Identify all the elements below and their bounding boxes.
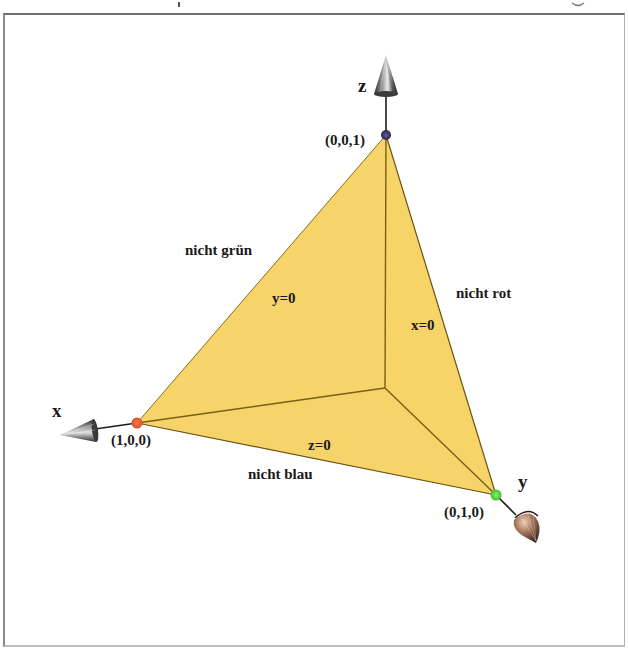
z-vertex-dot	[381, 130, 391, 140]
plane-label-y0: y=0	[272, 291, 296, 306]
y-axis-label: y	[518, 472, 528, 491]
tetrahedron-diagram	[0, 0, 628, 652]
side-label-nicht-rot: nicht rot	[456, 286, 511, 301]
x-arrowhead-icon	[60, 419, 100, 443]
z-vertex-label: (0,0,1)	[325, 133, 365, 148]
x-axis-label: x	[52, 401, 62, 420]
x-vertex-label: (1,0,0)	[111, 433, 151, 448]
plane-label-x0: x=0	[411, 318, 435, 333]
plane-label-z0: z=0	[308, 438, 331, 453]
side-label-nicht-gruen: nicht grün	[185, 243, 252, 258]
y-vertex-dot	[491, 490, 502, 501]
z-axis-label: z	[358, 76, 366, 95]
x-vertex-dot	[132, 418, 143, 429]
y-arrowhead-icon	[514, 511, 540, 543]
z-arrowhead-icon	[374, 55, 398, 97]
side-label-nicht-blau: nicht blau	[248, 467, 313, 482]
y-vertex-label: (0,1,0)	[444, 505, 484, 520]
